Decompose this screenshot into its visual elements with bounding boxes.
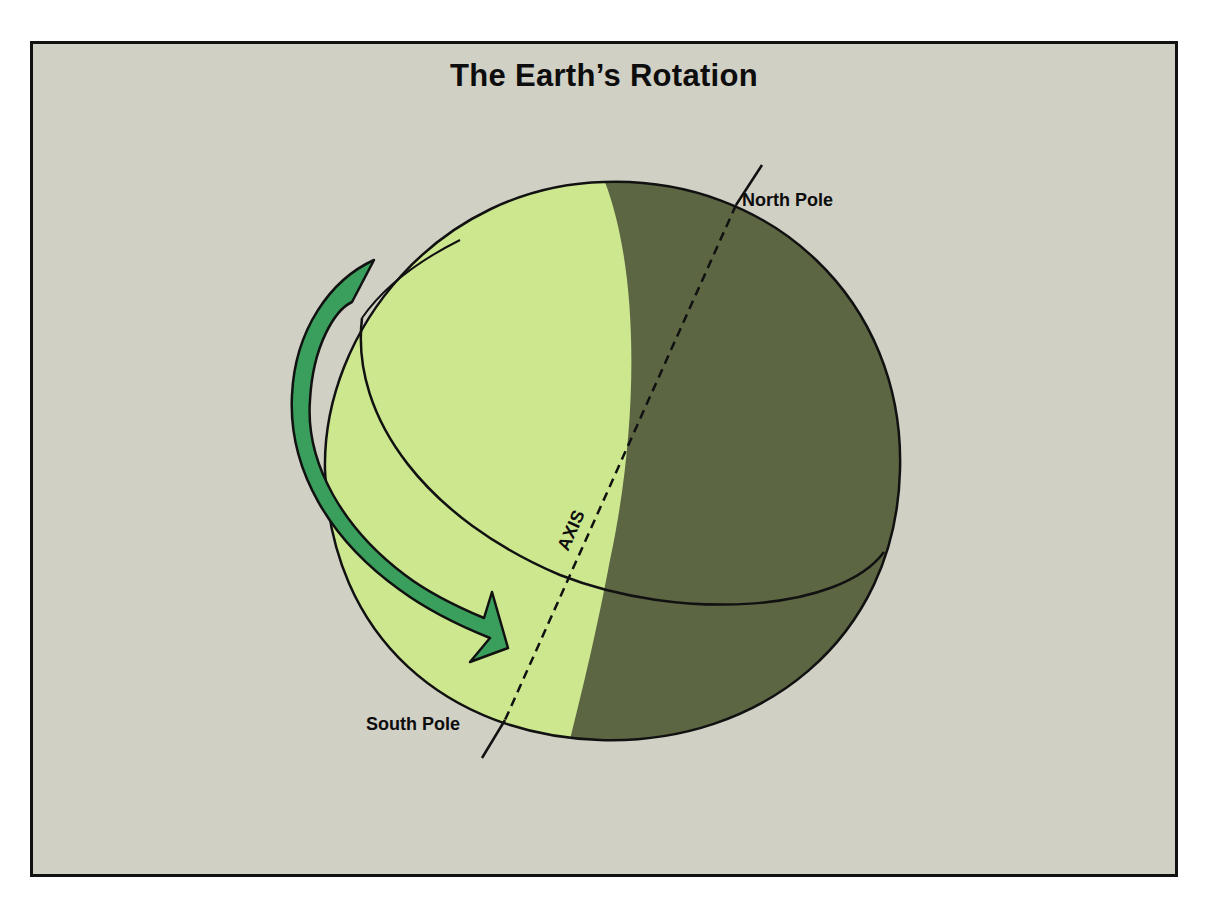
earth-diagram: North Pole South Pole AXIS — [0, 0, 1208, 910]
north-pole-label: North Pole — [742, 190, 833, 210]
south-pole-label: South Pole — [366, 714, 460, 734]
earth-sphere — [325, 160, 960, 760]
